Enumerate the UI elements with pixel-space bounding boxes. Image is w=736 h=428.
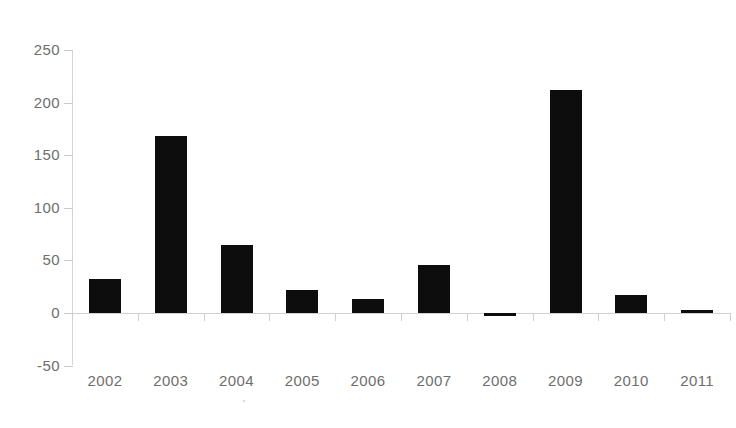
x-axis-tick-label: 2011 — [664, 373, 730, 388]
y-axis-tick-label: 200 — [6, 95, 60, 110]
bar — [89, 279, 121, 313]
bar — [352, 299, 384, 313]
bar — [681, 310, 713, 313]
bar — [550, 90, 582, 313]
bar — [286, 290, 318, 313]
x-axis-tick-label: 2010 — [598, 373, 664, 388]
bar — [418, 265, 450, 313]
bar — [484, 313, 516, 316]
y-axis-tick — [64, 155, 73, 156]
bar — [155, 136, 187, 313]
x-axis-tick-label: 2009 — [533, 373, 599, 388]
y-axis-tick-label: 100 — [6, 200, 60, 215]
x-axis-tick-label: 2007 — [401, 373, 467, 388]
x-axis-tick-label: 2005 — [269, 373, 335, 388]
y-axis-tick-label: 50 — [6, 252, 60, 267]
x-axis-tick — [467, 313, 468, 321]
y-axis-tick-label: 0 — [6, 305, 60, 320]
bar — [615, 295, 647, 313]
y-axis-tick — [64, 103, 73, 104]
y-axis-tick — [64, 208, 73, 209]
bar-chart: 250200150100500-50 200220032004200520062… — [0, 0, 736, 428]
x-axis-tick-label: 2002 — [72, 373, 138, 388]
x-axis-tick — [533, 313, 534, 321]
stray-mark — [243, 400, 245, 402]
x-axis-tick — [730, 313, 731, 321]
x-axis-tick — [401, 313, 402, 321]
y-axis-tick-label: -50 — [6, 358, 60, 373]
x-axis-tick-label: 2008 — [467, 373, 533, 388]
bar — [221, 245, 253, 313]
x-axis-tick — [664, 313, 665, 321]
y-axis-tick — [64, 260, 73, 261]
y-axis-tick-label: 250 — [6, 42, 60, 57]
x-axis-tick — [72, 313, 73, 321]
y-axis-tick — [64, 366, 73, 367]
y-axis-tick — [64, 50, 73, 51]
x-axis-tick — [138, 313, 139, 321]
x-axis-tick — [335, 313, 336, 321]
x-axis-tick — [269, 313, 270, 321]
x-axis-tick — [598, 313, 599, 321]
y-axis-tick-label: 150 — [6, 147, 60, 162]
x-axis-tick — [204, 313, 205, 321]
x-axis-tick-label: 2003 — [138, 373, 204, 388]
x-axis-tick-label: 2006 — [335, 373, 401, 388]
x-axis-tick-label: 2004 — [204, 373, 270, 388]
